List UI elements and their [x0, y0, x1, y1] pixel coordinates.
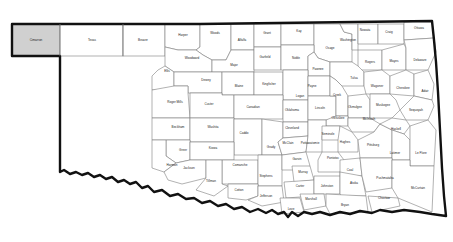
county-shape-beckham[interactable]: [152, 118, 190, 140]
county-shape-kiowa[interactable]: [190, 142, 234, 160]
county-label-choctaw: Choctaw: [378, 196, 391, 200]
county-label-ottawa: Ottawa: [414, 26, 424, 30]
county-label-roger-mills: Roger Mills: [167, 100, 183, 104]
county-label-woods: Woods: [210, 31, 220, 35]
county-label-mcintosh: McIntosh: [363, 117, 376, 121]
county-label-canadian: Canadian: [246, 105, 259, 109]
county-label-ellis: Ellis: [164, 69, 170, 73]
county-shape-grant[interactable]: [254, 24, 281, 47]
county-label-pottawatomie: Pottawatomie: [301, 141, 320, 145]
county-label-garfield: Garfield: [260, 55, 271, 59]
county-label-cherokee: Cherokee: [396, 86, 410, 90]
county-label-pushmataha: Pushmataha: [376, 176, 394, 180]
county-label-sequoyah: Sequoyah: [409, 108, 423, 112]
county-label-creek: Creek: [333, 93, 342, 97]
county-label-custer: Custer: [204, 102, 213, 106]
county-shape-mayes[interactable]: [382, 44, 406, 70]
county-label-tillman: Tillman: [206, 179, 216, 183]
county-label-latimer: Latimer: [390, 151, 400, 155]
county-label-jefferson: Jefferson: [260, 194, 273, 198]
county-shape-stephens[interactable]: [258, 155, 282, 186]
county-shape-ottawa[interactable]: [404, 21, 434, 40]
county-label-atoka: Atoka: [350, 181, 358, 185]
county-label-alfalfa: Alfalfa: [238, 38, 247, 42]
county-label-adair: Adair: [421, 89, 428, 93]
county-label-pontotoc: Pontotoc: [327, 156, 340, 160]
county-label-woodward: Woodward: [185, 56, 200, 60]
county-label-logan: Logan: [296, 94, 305, 98]
county-label-cimarron: Cimarron: [30, 38, 43, 42]
county-label-garvin: Garvin: [292, 157, 301, 161]
county-label-mccurtain: McCurtain: [411, 186, 425, 190]
county-shape-wagoner[interactable]: [364, 70, 390, 94]
county-label-kay: Kay: [296, 29, 302, 33]
county-shape-latimer[interactable]: [392, 130, 410, 160]
county-label-grant: Grant: [263, 31, 271, 35]
county-label-harmon: Harmon: [167, 163, 178, 167]
county-label-muskogee: Muskogee: [376, 103, 391, 107]
county-label-tulsa: Tulsa: [350, 76, 358, 80]
county-label-johnston: Johnston: [321, 184, 334, 188]
county-shape-cherokee[interactable]: [390, 70, 414, 96]
county-label-coal: Coal: [347, 168, 354, 172]
county-label-texas: Texas: [88, 38, 97, 42]
county-label-pawnee: Pawnee: [312, 67, 323, 71]
county-label-rogers: Rogers: [365, 60, 375, 64]
county-shape-caddo[interactable]: [234, 119, 262, 155]
county-label-beckham: Beckham: [172, 125, 185, 129]
county-shape-craig[interactable]: [378, 24, 404, 44]
county-shape-kay[interactable]: [281, 24, 314, 45]
county-label-marshall: Marshall: [305, 197, 317, 201]
county-label-harper: Harper: [178, 33, 187, 37]
county-shape-grady[interactable]: [262, 119, 283, 155]
county-label-craig: Craig: [385, 30, 393, 34]
county-shape-leflore[interactable]: [410, 120, 436, 166]
county-label-mayes: Mayes: [389, 59, 399, 63]
county-label-haskell: Haskell: [391, 127, 401, 131]
county-label-washita: Washita: [207, 125, 218, 129]
county-label-okmulgee: Okmulgee: [348, 105, 362, 109]
county-label-wagoner: Wagoner: [371, 84, 383, 88]
county-label-osage: Osage: [325, 46, 334, 50]
county-label-washington: Washington: [340, 38, 356, 42]
county-label-lincoln: Lincoln: [315, 106, 325, 110]
county-label-greer: Greer: [179, 148, 187, 152]
oklahoma-county-map: CimarronTexasBeaverHarperWoodsAlfalfaGra…: [0, 0, 453, 242]
county-shape-washita[interactable]: [190, 118, 234, 142]
county-label-nowata: Nowata: [360, 28, 371, 32]
county-shape-adair[interactable]: [414, 70, 434, 100]
county-label-caddo: Caddo: [239, 131, 248, 135]
county-label-cotton: Cotton: [234, 188, 243, 192]
county-shape-cleveland[interactable]: [283, 122, 308, 138]
county-label-noble: Noble: [292, 56, 300, 60]
county-label-grady: Grady: [267, 145, 276, 149]
county-label-seminole: Seminole: [322, 132, 335, 136]
county-label-hughes: Hughes: [340, 140, 351, 144]
county-label-jackson: Jackson: [183, 166, 195, 170]
county-label-delaware: Delaware: [413, 58, 426, 62]
county-label-le-flore: Le Flore: [415, 151, 427, 155]
county-shape-delaware[interactable]: [404, 38, 436, 70]
county-label-blaine: Blaine: [235, 84, 244, 88]
map-svg: CimarronTexasBeaverHarperWoodsAlfalfaGra…: [0, 0, 453, 242]
county-label-murray: Murray: [298, 170, 308, 174]
county-label-carter: Carter: [296, 184, 305, 188]
county-label-kingfisher: Kingfisher: [262, 82, 276, 86]
county-label-comanche: Comanche: [233, 163, 248, 167]
county-label-cleveland: Cleveland: [285, 126, 299, 130]
county-label-dewey: Dewey: [201, 78, 211, 82]
county-shape-murray[interactable]: [292, 166, 314, 182]
county-label-mcclain: McClain: [282, 141, 293, 145]
county-label-pittsburg: Pittsburg: [367, 143, 379, 147]
county-label-bryan: Bryan: [341, 203, 349, 207]
county-label-beaver: Beaver: [138, 38, 148, 42]
county-label-stephens: Stephens: [259, 174, 272, 178]
county-shape-harper[interactable]: [165, 24, 200, 50]
county-label-love: Love: [288, 207, 295, 211]
county-label-kiowa: Kiowa: [209, 146, 218, 150]
county-label-oklahoma: Oklahoma: [285, 108, 299, 112]
county-label-major: Major: [230, 63, 238, 67]
county-label-okfuskee: Okfuskee: [331, 116, 344, 120]
county-label-payne: Payne: [308, 84, 317, 88]
